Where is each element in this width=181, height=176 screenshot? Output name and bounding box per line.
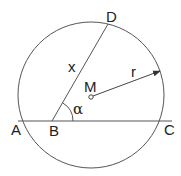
label-d: D: [106, 8, 117, 25]
label-x: x: [68, 58, 76, 75]
center-point-m: [89, 95, 93, 99]
label-c: C: [164, 121, 175, 138]
label-alpha: α: [73, 100, 83, 118]
radius-arrow: [93, 71, 160, 96]
label-m: M: [84, 78, 97, 95]
angle-arc-alpha: [63, 103, 74, 121]
label-b: B: [49, 122, 59, 139]
label-r: r: [131, 63, 136, 80]
label-a: A: [11, 121, 21, 138]
circle-chord-diagram: A B C D M x r α: [0, 0, 181, 176]
